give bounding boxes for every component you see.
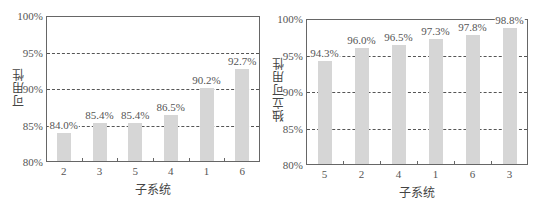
y-axis-label: 可用性 (10, 68, 27, 107)
bar (200, 88, 214, 161)
bar-value-label: 97.3% (420, 25, 450, 37)
x-minor-tick (189, 158, 190, 161)
bar-value-label: 84.0% (49, 119, 79, 131)
gridline (47, 89, 259, 90)
y-tick-label: 95% (9, 47, 43, 59)
bar-value-label: 96.5% (383, 31, 413, 43)
x-tick-label: 5 (322, 168, 328, 180)
bar-value-label: 96.0% (346, 34, 376, 46)
bar (392, 45, 406, 164)
x-minor-tick (417, 161, 418, 164)
y-tick-label: 85% (9, 120, 43, 132)
x-axis-label: 子系统 (135, 180, 171, 197)
bar-value-label: 97.8% (457, 21, 487, 33)
x-tick-label: 1 (204, 165, 210, 177)
x-minor-tick (224, 158, 225, 161)
x-minor-tick (380, 161, 381, 164)
x-minor-tick (343, 161, 344, 164)
bar (164, 115, 178, 161)
bar-value-label: 86.5% (156, 101, 186, 113)
gridline (307, 92, 527, 93)
x-minor-tick (153, 158, 154, 161)
independent-availability-chart: 80%85%90%95%100%94.3%596.0%296.5%497.3%1… (268, 0, 538, 206)
x-minor-tick (117, 158, 118, 161)
x-tick-label: 2 (61, 165, 67, 177)
y-tick-label: 85% (269, 123, 303, 135)
bar-value-label: 85.4% (120, 109, 150, 121)
bar (466, 35, 480, 164)
gridline (47, 53, 259, 54)
bar-value-label: 85.4% (84, 109, 114, 121)
gridline (307, 129, 527, 130)
x-tick-label: 1 (433, 168, 439, 180)
bar (503, 28, 517, 164)
bar (318, 61, 332, 164)
bar (355, 48, 369, 164)
bar-value-label: 98.8% (494, 14, 524, 26)
y-tick-label: 80% (9, 156, 43, 168)
x-tick-label: 3 (97, 165, 103, 177)
bar (235, 69, 249, 161)
x-tick-label: 5 (132, 165, 138, 177)
bar-value-label: 94.3% (309, 47, 339, 59)
y-tick-label: 80% (269, 159, 303, 171)
y-tick-label: 100% (9, 10, 43, 22)
x-minor-tick (454, 161, 455, 164)
plot-area (46, 16, 260, 162)
bar (429, 39, 443, 164)
y-tick-label: 100% (269, 13, 303, 25)
x-tick-label: 6 (470, 168, 476, 180)
x-tick-label: 4 (168, 165, 174, 177)
plot-area (306, 19, 528, 165)
x-tick-label: 4 (396, 168, 402, 180)
availability-chart: 80%85%90%95%100%84.0%285.4%385.4%586.5%4… (0, 0, 270, 206)
bar (57, 133, 71, 161)
bar (128, 123, 142, 161)
gridline (307, 56, 527, 57)
x-tick-label: 6 (239, 165, 245, 177)
bar-value-label: 92.7% (227, 55, 257, 67)
x-tick-label: 2 (359, 168, 365, 180)
x-tick-label: 3 (507, 168, 513, 180)
y-axis-label: 独立可用性 (270, 57, 287, 122)
x-minor-tick (491, 161, 492, 164)
bar (93, 123, 107, 161)
bar-value-label: 90.2% (191, 74, 221, 86)
x-axis-label: 子系统 (399, 183, 435, 200)
x-minor-tick (82, 158, 83, 161)
